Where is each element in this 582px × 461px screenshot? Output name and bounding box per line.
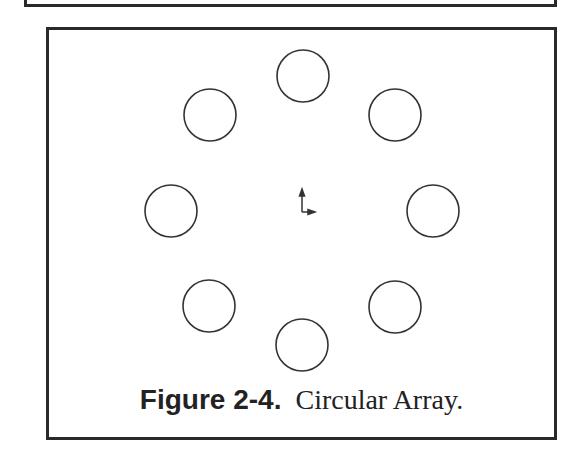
array-circle xyxy=(183,280,235,332)
origin-axis-icon xyxy=(300,189,316,215)
array-circle xyxy=(184,89,236,141)
array-circle xyxy=(277,50,329,102)
figure-title: Circular Array. xyxy=(295,384,463,415)
figure-caption: Figure 2-4. Circular Array. xyxy=(46,384,557,416)
array-circle xyxy=(369,89,421,141)
array-circle xyxy=(369,281,421,333)
array-circle xyxy=(276,319,328,371)
figure-number: Figure 2-4. xyxy=(140,384,282,415)
array-circle xyxy=(407,185,459,237)
array-circle xyxy=(145,185,197,237)
